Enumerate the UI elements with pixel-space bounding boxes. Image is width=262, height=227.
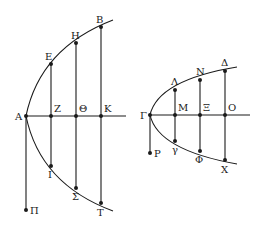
- label-H: Η: [71, 30, 80, 41]
- point-Phi: [198, 149, 202, 153]
- label-Theta: Θ: [79, 103, 87, 114]
- label-E: Ε: [45, 51, 52, 62]
- point-Delta: [223, 69, 227, 73]
- point-E: [49, 62, 53, 66]
- point-B: [99, 25, 103, 29]
- point-T: [99, 201, 103, 205]
- point-M: [173, 113, 177, 117]
- right-figure: Γ Μ Ξ Ο Λ Ν Δ γ Φ Χ Ρ: [140, 57, 250, 175]
- point-Gamma: [148, 113, 152, 117]
- label-B: Β: [96, 14, 103, 25]
- point-H: [74, 41, 78, 45]
- point-X: [223, 158, 227, 162]
- left-figure: Α Ζ Θ Κ Ε Η Β Ι Σ Τ Π: [14, 14, 126, 218]
- point-K: [99, 114, 103, 118]
- point-Z: [49, 114, 53, 118]
- label-A: Α: [14, 111, 23, 122]
- point-Sigma: [74, 186, 78, 190]
- point-O: [223, 113, 227, 117]
- point-Rho: [148, 151, 152, 155]
- label-M: Μ: [178, 102, 188, 113]
- label-N: Ν: [196, 66, 205, 77]
- point-Xi: [198, 113, 202, 117]
- label-gamma: γ: [172, 144, 178, 155]
- point-Lambda: [173, 88, 177, 92]
- point-I: [49, 164, 53, 168]
- label-Pi: Π: [30, 205, 39, 216]
- label-Phi: Φ: [195, 154, 203, 165]
- point-A: [24, 114, 28, 118]
- point-N: [198, 78, 202, 82]
- point-gamma: [173, 139, 177, 143]
- label-Z: Ζ: [54, 103, 61, 114]
- label-Lambda: Λ: [170, 76, 179, 87]
- label-Gamma: Γ: [140, 110, 147, 121]
- point-Pi: [24, 208, 28, 212]
- label-I: Ι: [48, 169, 52, 180]
- label-K: Κ: [104, 103, 112, 114]
- label-Sigma: Σ: [72, 191, 79, 202]
- parabola-diagram: Α Ζ Θ Κ Ε Η Β Ι Σ Τ Π Γ Μ Ξ Ο Λ Ν Δ: [0, 0, 262, 227]
- label-Delta: Δ: [221, 57, 228, 68]
- label-T: Τ: [97, 207, 104, 218]
- label-X: Χ: [221, 164, 229, 175]
- label-Rho: Ρ: [154, 148, 161, 159]
- point-Theta: [74, 114, 78, 118]
- label-Xi: Ξ: [203, 102, 210, 113]
- label-O: Ο: [228, 102, 236, 113]
